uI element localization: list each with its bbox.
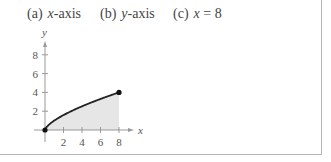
x-tick-label: 8 [116,136,122,148]
endpoint-dot [116,90,121,95]
x-tick-label: 4 [79,136,85,148]
endpoint-dot [42,127,47,132]
x-axis-label: x [137,124,143,136]
y-tick-label: 8 [33,49,39,61]
y-axis-arrow-icon [43,41,47,47]
y-axis-label: y [41,26,47,38]
x-axis-arrow-icon [128,128,134,132]
graph: 24682468 x y [0,0,331,162]
y-tick-label: 6 [33,68,39,80]
shaded-region [45,92,119,130]
y-tick-label: 4 [33,86,39,98]
x-tick-label: 2 [61,136,67,148]
x-tick-label: 6 [98,136,104,148]
y-tick-label: 2 [33,105,39,117]
